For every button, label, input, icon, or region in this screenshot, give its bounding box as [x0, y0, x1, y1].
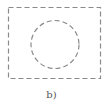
dashed-rectangle: [9, 8, 101, 79]
dashed-circle: [31, 21, 79, 69]
figure-caption: b): [0, 89, 103, 101]
